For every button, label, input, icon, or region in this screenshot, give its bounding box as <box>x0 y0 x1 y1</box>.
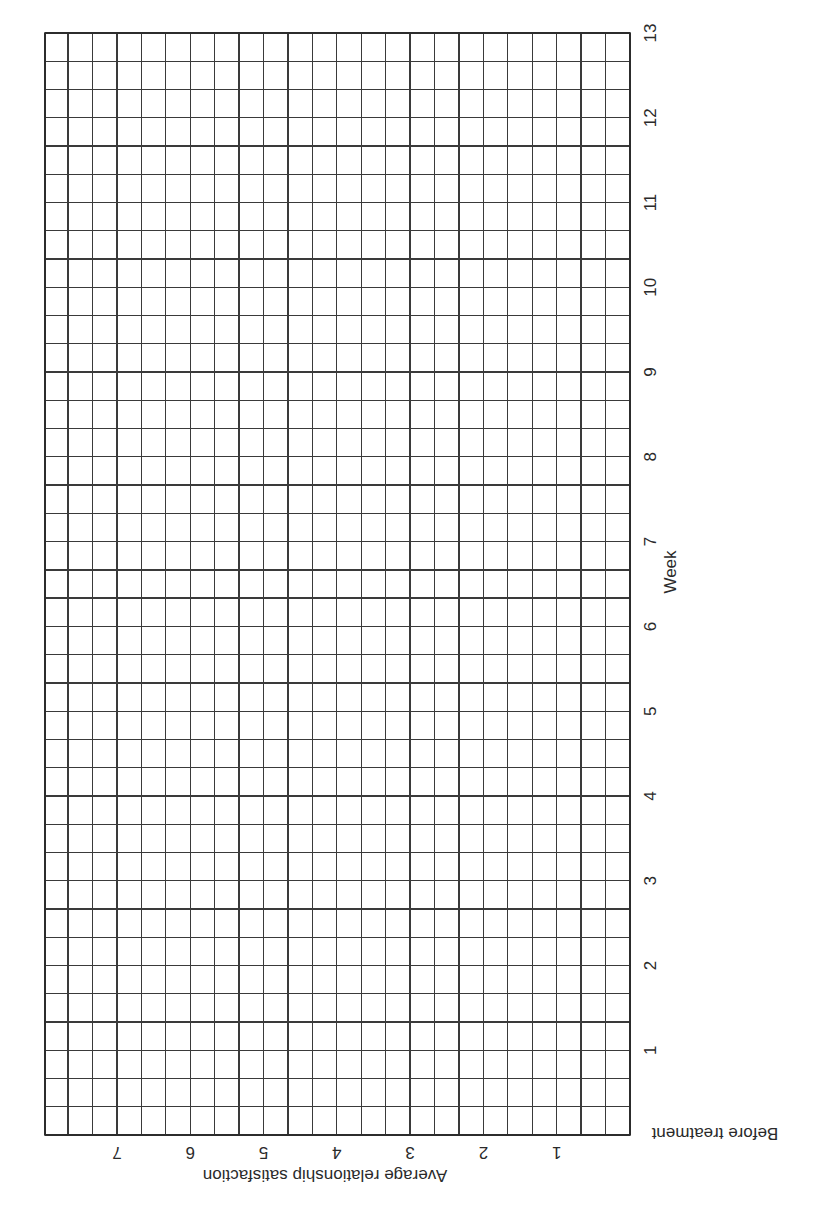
satisfaction-tick-label: 7 <box>112 1143 121 1162</box>
week-tick-label: 2 <box>641 961 660 970</box>
week-tick-label: 12 <box>641 108 660 127</box>
satisfaction-tick-label: 3 <box>405 1143 414 1162</box>
week-tick-label: 5 <box>641 706 660 715</box>
week-tick-label: 11 <box>641 194 660 212</box>
chart: 12345678910111213 1234567 Week Before tr… <box>0 0 823 1224</box>
week-tick-label: 3 <box>641 876 660 885</box>
week-tick-label: 7 <box>641 537 660 546</box>
satisfaction-tick-label: 2 <box>479 1143 488 1162</box>
week-tick-label: 4 <box>641 791 660 800</box>
week-tick-label: 1 <box>641 1045 660 1054</box>
satisfaction-tick-label: 4 <box>332 1143 341 1162</box>
week-tick-label: 13 <box>641 24 660 43</box>
week-axis-ticks: 12345678910111213 <box>641 24 660 1055</box>
week-tick-label: 10 <box>641 278 660 297</box>
satisfaction-axis-title: Average relationship satisfaction <box>203 1166 447 1185</box>
week-tick-label: 6 <box>641 622 660 631</box>
before-treatment-label: Before treatment <box>651 1124 778 1143</box>
satisfaction-axis-ticks: 1234567 <box>112 1143 561 1162</box>
grid <box>45 33 630 1135</box>
week-tick-label: 9 <box>641 367 660 376</box>
satisfaction-tick-label: 6 <box>185 1143 194 1162</box>
plot-frame <box>45 33 630 1135</box>
week-tick-label: 8 <box>641 452 660 461</box>
week-axis-title: Week <box>661 550 680 594</box>
satisfaction-tick-label: 5 <box>259 1143 268 1162</box>
satisfaction-tick-label: 1 <box>552 1143 561 1162</box>
